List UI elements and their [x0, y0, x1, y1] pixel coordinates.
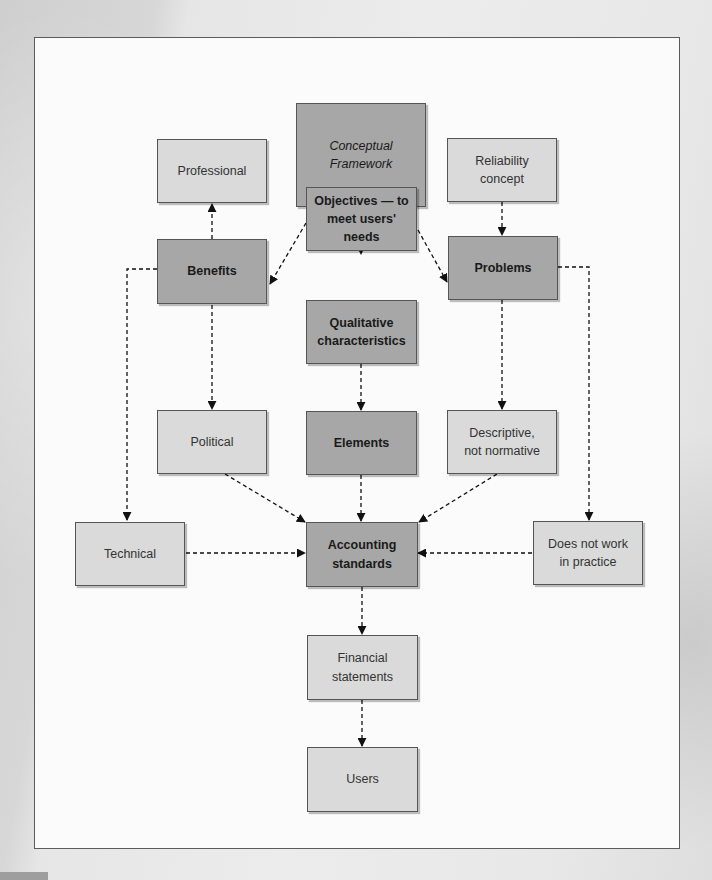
- node-benefits: Benefits: [157, 239, 267, 304]
- node-label: Professional: [178, 162, 247, 180]
- node-label: Qualitative characteristics: [317, 314, 405, 350]
- node-label: Accounting standards: [328, 536, 397, 572]
- node-objectives: Objectives — to meet users' needs: [306, 187, 417, 251]
- node-label: Political: [190, 433, 233, 451]
- node-label: Technical: [104, 545, 156, 563]
- page-corner-strip: [0, 872, 48, 880]
- node-reliability-concept: Reliability concept: [447, 138, 557, 202]
- node-descriptive-not-normative: Descriptive, not normative: [447, 410, 557, 474]
- node-label: Elements: [334, 434, 390, 452]
- node-qualitative-characteristics: Qualitative characteristics: [306, 300, 417, 364]
- node-label: Users: [346, 770, 379, 788]
- node-users: Users: [307, 747, 418, 812]
- node-label: Benefits: [187, 262, 236, 280]
- node-label: Problems: [475, 259, 532, 277]
- node-professional: Professional: [157, 139, 267, 203]
- node-problems: Problems: [448, 236, 558, 300]
- node-label: Does not work in practice: [548, 535, 628, 571]
- node-label: Objectives — to meet users' needs: [311, 192, 412, 246]
- node-label: Descriptive, not normative: [464, 424, 540, 460]
- node-elements: Elements: [306, 411, 417, 475]
- node-label: Reliability concept: [475, 152, 529, 188]
- node-technical: Technical: [75, 522, 185, 586]
- node-does-not-work-in-practice: Does not work in practice: [533, 521, 643, 585]
- node-label: Conceptual Framework: [329, 137, 392, 173]
- node-accounting-standards: Accounting standards: [306, 522, 418, 587]
- node-financial-statements: Financial statements: [307, 635, 418, 700]
- node-label: Financial statements: [332, 649, 393, 685]
- node-political: Political: [157, 410, 267, 474]
